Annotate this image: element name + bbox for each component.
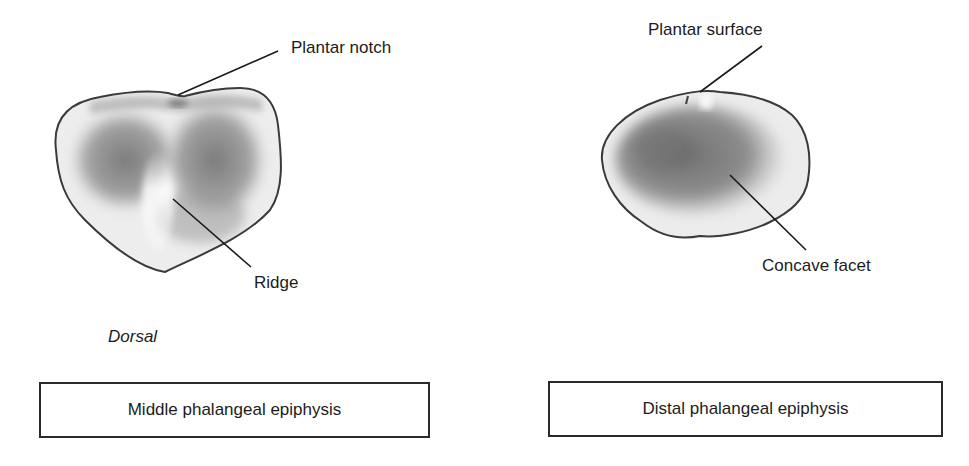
plantar-notch-label: Plantar notch: [291, 38, 391, 58]
plantar-surface-label: Plantar surface: [648, 20, 762, 40]
concave-facet-label: Concave facet: [762, 256, 871, 276]
distal-phalangeal-epiphysis-title: Distal phalangeal epiphysis: [642, 399, 848, 419]
distal-phalangeal-epiphysis-caption: Distal phalangeal epiphysis: [548, 381, 943, 437]
middle-phalangeal-epiphysis-caption: Middle phalangeal epiphysis: [39, 382, 430, 438]
figure: Plantar notch Ridge Dorsal Middle phalan…: [0, 0, 969, 466]
middle-phalangeal-epiphysis-title: Middle phalangeal epiphysis: [128, 400, 342, 420]
plantar-surface-leader-line: [700, 46, 762, 92]
dorsal-view-label: Dorsal: [108, 327, 157, 347]
ridge-label: Ridge: [254, 273, 298, 293]
distal-phalangeal-epiphysis-illustration: [602, 91, 810, 237]
middle-phalangeal-epiphysis-illustration: [55, 88, 280, 272]
